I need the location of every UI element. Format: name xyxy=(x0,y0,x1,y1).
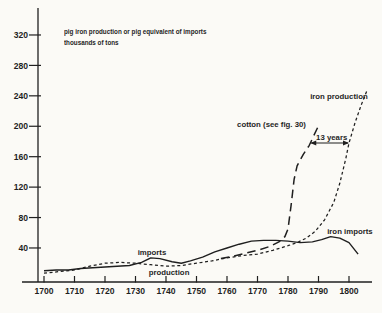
thirteen-years-label: 13 years xyxy=(316,133,348,142)
y-tick-label: 200 xyxy=(14,121,29,131)
x-tick-label: 1780 xyxy=(278,286,297,296)
cotton-label: cotton (see fig. 30) xyxy=(237,120,306,129)
x-tick-label: 1720 xyxy=(95,286,114,296)
x-tick-label: 1770 xyxy=(248,286,267,296)
chart-canvas: 4080120160200240280320170017101720173017… xyxy=(0,0,382,313)
x-tick-label: 1750 xyxy=(187,286,206,296)
y-tick-label: 280 xyxy=(14,61,29,71)
x-tick-label: 1800 xyxy=(339,286,358,296)
y-tick-label: 160 xyxy=(14,152,29,162)
iron-imports-label: iron imports xyxy=(327,227,373,236)
x-tick-label: 1740 xyxy=(156,286,175,296)
x-tick-label: 1700 xyxy=(34,286,53,296)
y-tick-label: 240 xyxy=(14,91,29,101)
y-tick-label: 120 xyxy=(14,182,29,192)
x-tick-label: 1730 xyxy=(126,286,145,296)
imports-label: imports xyxy=(138,248,167,257)
iron-production-label: iron production xyxy=(310,92,368,101)
y-tick-label: 80 xyxy=(18,213,28,223)
x-tick-label: 1790 xyxy=(309,286,328,296)
y-tick-label: 40 xyxy=(18,243,28,253)
x-tick-label: 1760 xyxy=(217,286,236,296)
y-tick-label: 320 xyxy=(14,30,29,40)
scanned-chart-page: pig iron production or pig equivalent of… xyxy=(0,0,382,313)
series-iron-line xyxy=(44,237,358,271)
series-iron-line xyxy=(44,90,367,273)
x-tick-label: 1710 xyxy=(65,286,84,296)
production-label: production xyxy=(149,268,190,277)
